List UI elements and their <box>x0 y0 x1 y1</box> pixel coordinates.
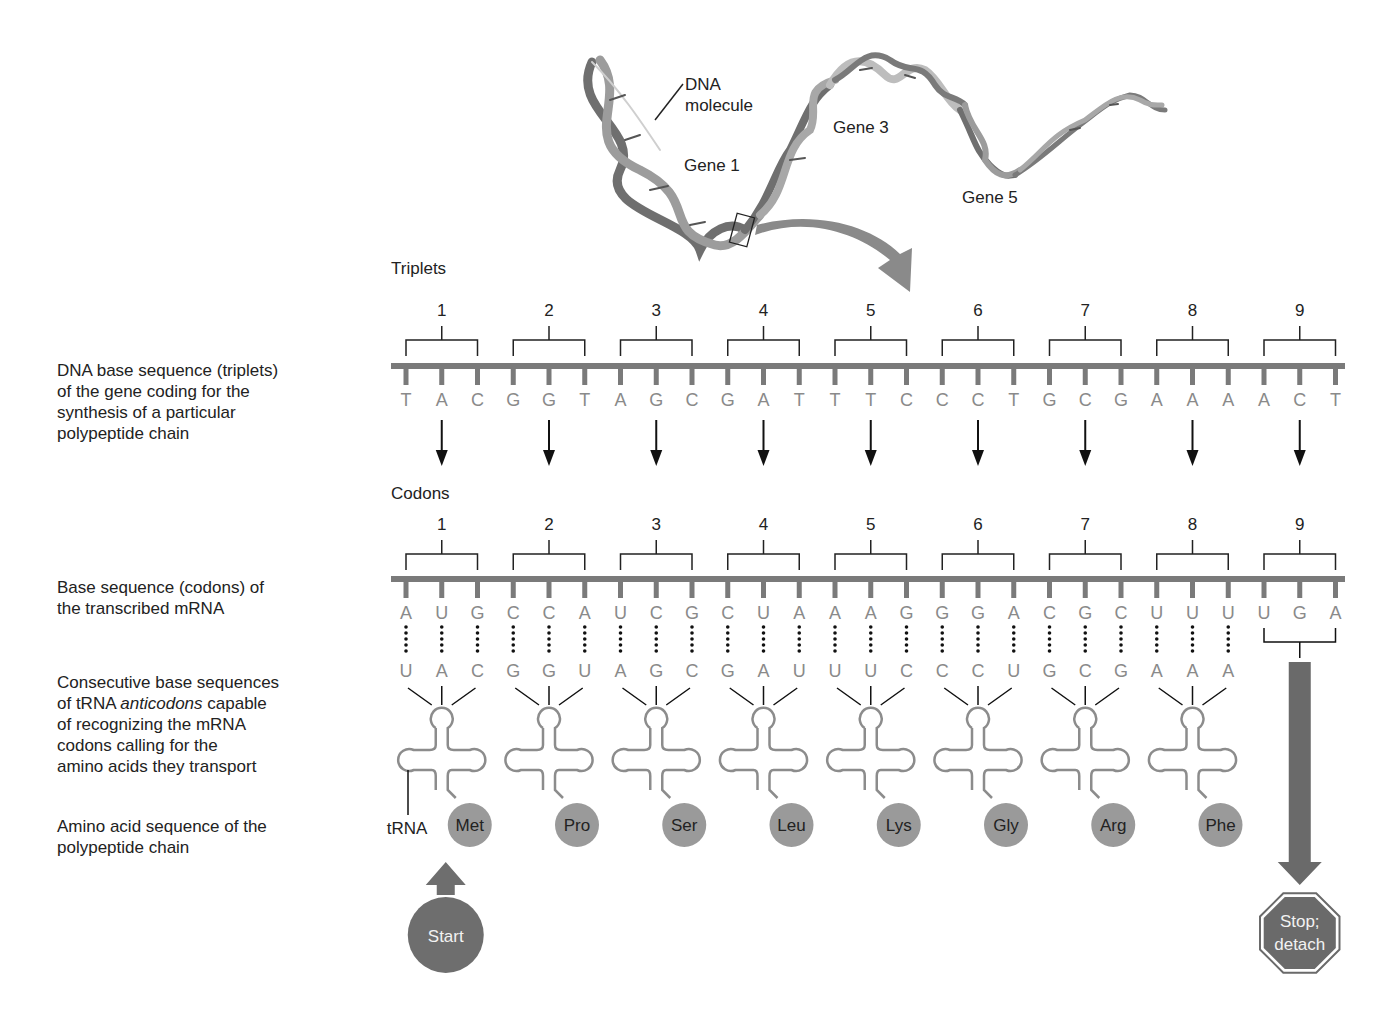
anticodon-base: C <box>686 661 699 681</box>
base-pair-dot <box>976 637 980 641</box>
base-pair-dot <box>654 649 658 653</box>
mrna-base-tick <box>1226 581 1231 598</box>
mrna-base: A <box>793 603 805 623</box>
base-pair-dot <box>976 625 980 629</box>
mrna-base: A <box>1329 603 1341 623</box>
group-bracket <box>621 326 693 356</box>
group-bracket <box>406 326 478 356</box>
base-pair-dot <box>404 637 408 641</box>
mrna-base: C <box>543 603 556 623</box>
stop-sign-icon <box>1264 897 1336 969</box>
base-pair-dot <box>404 649 408 653</box>
anticodon-base: U <box>578 661 591 681</box>
group-number: 4 <box>759 515 768 534</box>
base-pair-dot <box>654 637 658 641</box>
anticodon-base: C <box>936 661 949 681</box>
group-bracket <box>513 540 585 570</box>
amino-acid-met: Met <box>456 816 485 835</box>
group-number: 4 <box>759 301 768 320</box>
dna-base-tick <box>1119 368 1124 385</box>
base-pair-dot <box>619 625 623 629</box>
mrna-base: C <box>650 603 663 623</box>
mrna-base-tick <box>940 581 945 598</box>
mrna-base: A <box>865 603 877 623</box>
arrow-head-icon <box>865 450 877 466</box>
base-pair-dot <box>440 631 444 635</box>
group-number: 2 <box>544 301 553 320</box>
base-pair-dot <box>1083 649 1087 653</box>
trna-label: tRNA <box>387 819 428 838</box>
base-pair-dot <box>690 649 694 653</box>
base-pair-dot <box>940 643 944 647</box>
anticodon-base: U <box>400 661 413 681</box>
mrna-base-tick <box>1119 581 1124 598</box>
group-bracket <box>1264 326 1336 356</box>
mrna-base-tick <box>439 581 444 598</box>
anticodon-base: C <box>972 661 985 681</box>
mrna-base: U <box>614 603 627 623</box>
dna-base: C <box>972 390 985 410</box>
trna-icon <box>1149 708 1236 798</box>
mrna-base: U <box>757 603 770 623</box>
base-pair-dot <box>440 649 444 653</box>
base-pair-dot <box>440 637 444 641</box>
base-pair-dot <box>1191 631 1195 635</box>
base-pair-dot <box>547 625 551 629</box>
trna-icon <box>827 708 914 798</box>
mrna-base-tick <box>868 581 873 598</box>
mrna-base: G <box>899 603 913 623</box>
anticodon-base: G <box>1042 661 1056 681</box>
base-pair-dot <box>976 631 980 635</box>
base-pair-dot <box>511 643 515 647</box>
mrna-base-tick <box>1154 581 1159 598</box>
mrna-base: A <box>400 603 412 623</box>
base-pair-dot <box>440 625 444 629</box>
anticodon-base: A <box>757 661 769 681</box>
mrna-base-tick <box>725 581 730 598</box>
stop-label-line2: detach <box>1274 935 1325 954</box>
mrna-base-tick <box>1297 581 1302 598</box>
base-pair-dot <box>1083 643 1087 647</box>
group-number: 5 <box>866 515 875 534</box>
mrna-base-tick <box>404 581 409 598</box>
mrna-base-tick <box>976 581 981 598</box>
mrna-base-tick <box>833 581 838 598</box>
mrna-base: C <box>507 603 520 623</box>
base-pair-dot <box>690 625 694 629</box>
group-bracket <box>513 326 585 356</box>
dna-base-tick <box>618 368 623 385</box>
dna-base: G <box>506 390 520 410</box>
base-pair-dot <box>1155 637 1159 641</box>
base-pair-dot <box>869 625 873 629</box>
base-pair-dot <box>690 643 694 647</box>
base-pair-dot <box>869 649 873 653</box>
mrna-base: G <box>1293 603 1307 623</box>
arrow-head-icon <box>436 450 448 466</box>
dna-base: A <box>1151 390 1163 410</box>
mrna-base: U <box>1150 603 1163 623</box>
group-number: 8 <box>1188 515 1197 534</box>
base-pair-dot <box>404 625 408 629</box>
mrna-base: U <box>1186 603 1199 623</box>
amino-acid-pro: Pro <box>564 816 590 835</box>
base-pair-dot <box>1012 631 1016 635</box>
base-pair-dot <box>547 649 551 653</box>
base-pair-dot <box>797 637 801 641</box>
anticodon-connector <box>623 686 691 705</box>
group-number: 7 <box>1081 301 1090 320</box>
base-pair-dot <box>1191 637 1195 641</box>
base-pair-dot <box>583 637 587 641</box>
mrna-base-tick <box>1011 581 1016 598</box>
base-pair-dot <box>476 625 480 629</box>
dna-base-tick <box>1262 368 1267 385</box>
base-pair-dot <box>1119 643 1123 647</box>
base-pair-dot <box>905 625 909 629</box>
base-pair-dot <box>1012 625 1016 629</box>
base-pair-dot <box>1155 631 1159 635</box>
mrna-base: G <box>935 603 949 623</box>
amino-acid-leu: Leu <box>777 816 805 835</box>
base-pair-dot <box>1012 649 1016 653</box>
group-bracket <box>942 540 1014 570</box>
dna-base: T <box>401 390 412 410</box>
mrna-base: G <box>470 603 484 623</box>
